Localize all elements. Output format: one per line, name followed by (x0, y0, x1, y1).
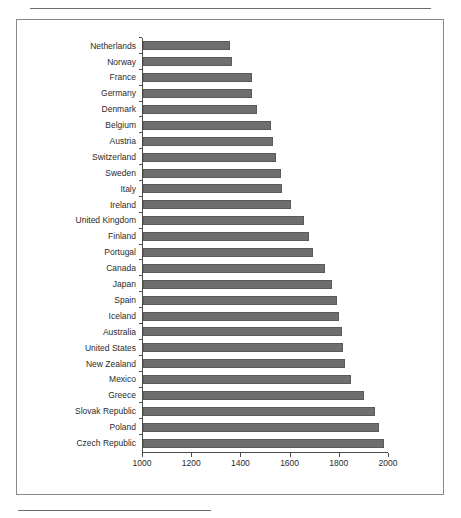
bar-row: Switzerland (142, 149, 388, 165)
bar-row: Australia (142, 324, 388, 340)
category-tick (139, 53, 142, 54)
category-label: Belgium (105, 121, 136, 130)
category-label: Germany (101, 89, 136, 98)
plot-area: NetherlandsNorwayFranceGermanyDenmarkBel… (142, 38, 388, 475)
bar (143, 439, 384, 448)
bar-row: Portugal (142, 245, 388, 261)
category-tick (139, 148, 142, 149)
bar-row: Denmark (142, 102, 388, 118)
bar-row: Czech Republic (142, 435, 388, 451)
bar (143, 423, 379, 432)
bar (143, 264, 325, 273)
bar-row: Germany (142, 86, 388, 102)
category-label: Slovak Republic (75, 407, 136, 416)
tick-label: 1400 (231, 459, 250, 468)
bar-row: Sweden (142, 165, 388, 181)
tick-label: 2000 (379, 459, 398, 468)
category-label: Canada (106, 264, 136, 273)
bar (143, 327, 342, 336)
category-tick (139, 259, 142, 260)
category-label: Netherlands (90, 42, 136, 51)
category-tick (139, 323, 142, 324)
category-tick (139, 101, 142, 102)
page-canvas: NetherlandsNorwayFranceGermanyDenmarkBel… (0, 0, 461, 518)
bar (143, 137, 273, 146)
bar-row: Poland (142, 419, 388, 435)
category-label: Denmark (102, 105, 136, 114)
bar (143, 296, 337, 305)
category-tick (139, 228, 142, 229)
tick-mark (339, 453, 340, 457)
category-tick (139, 116, 142, 117)
category-tick (139, 355, 142, 356)
category-label: Finland (108, 232, 136, 241)
bar-row: Netherlands (142, 38, 388, 54)
category-tick (139, 164, 142, 165)
chart-figure-frame: NetherlandsNorwayFranceGermanyDenmarkBel… (16, 19, 444, 495)
tick-mark (388, 453, 389, 457)
bar (143, 407, 375, 416)
category-label: Portugal (104, 248, 136, 257)
bar (143, 200, 291, 209)
category-tick (139, 418, 142, 419)
bar-row: Ireland (142, 197, 388, 213)
category-label: Japan (113, 280, 136, 289)
bar-row: Iceland (142, 308, 388, 324)
category-label: United States (85, 344, 136, 353)
bar-row: Belgium (142, 117, 388, 133)
bar-row: France (142, 70, 388, 86)
bar-row: Italy (142, 181, 388, 197)
bar-row: Japan (142, 276, 388, 292)
category-label: Mexico (109, 375, 136, 384)
tick-mark (240, 453, 241, 457)
bar-row: Slovak Republic (142, 403, 388, 419)
category-label: Switzerland (92, 153, 136, 162)
bar (143, 280, 332, 289)
bar-row: New Zealand (142, 356, 388, 372)
bar (143, 375, 351, 384)
category-tick (139, 69, 142, 70)
bar-rows: NetherlandsNorwayFranceGermanyDenmarkBel… (142, 38, 388, 453)
bar-row: Spain (142, 292, 388, 308)
bar (143, 105, 257, 114)
category-tick (139, 37, 142, 38)
category-label: Spain (114, 296, 136, 305)
category-tick (139, 307, 142, 308)
tick-mark (191, 453, 192, 457)
category-label: Czech Republic (76, 439, 136, 448)
bar-row: Norway (142, 54, 388, 70)
bar (143, 169, 281, 178)
category-tick (139, 132, 142, 133)
bar-row: Greece (142, 388, 388, 404)
tick-label: 1800 (329, 459, 348, 468)
value-axis-ticks: 100012001400160018002000 (142, 453, 388, 475)
tick-label: 1600 (280, 459, 299, 468)
tick-label: 1000 (133, 459, 152, 468)
bar (143, 343, 343, 352)
category-tick (139, 434, 142, 435)
bar-row: Finland (142, 229, 388, 245)
tick-mark (142, 453, 143, 457)
category-label: France (110, 73, 136, 82)
category-label: United Kingdom (76, 216, 136, 225)
category-label: Ireland (110, 201, 136, 210)
category-label: Austria (110, 137, 136, 146)
bar (143, 216, 304, 225)
bar-row: United Kingdom (142, 213, 388, 229)
bar (143, 248, 313, 257)
bar-row: Mexico (142, 372, 388, 388)
category-label: Iceland (109, 312, 136, 321)
bar (143, 312, 339, 321)
bar (143, 153, 276, 162)
category-tick (139, 180, 142, 181)
category-tick (139, 212, 142, 213)
category-tick (139, 244, 142, 245)
bar (143, 232, 309, 241)
bar (143, 359, 345, 368)
bar (143, 391, 364, 400)
bar-row: United States (142, 340, 388, 356)
category-tick (139, 85, 142, 86)
page-rule-bottom (18, 510, 211, 511)
bar (143, 89, 252, 98)
tick-label: 1200 (182, 459, 201, 468)
